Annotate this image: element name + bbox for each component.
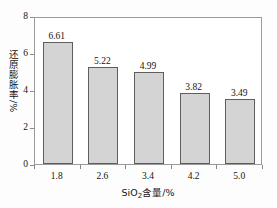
y-axis-tick-mark: [30, 91, 34, 92]
x-axis-tick-label: 5.0: [233, 170, 245, 183]
x-axis-tick-mark: [216, 165, 217, 169]
x-axis-tick-label: 2.6: [96, 170, 108, 183]
bar: [134, 72, 164, 164]
y-axis-title-unit: /%: [8, 100, 19, 112]
x-axis-tick-label: 4.2: [188, 170, 200, 183]
x-axis-tick-mark: [171, 165, 172, 169]
bar: [43, 42, 73, 164]
bar-value-label: 3.49: [231, 87, 248, 99]
y-axis-tick-mark: [30, 128, 34, 129]
y-axis-tick-mark: [30, 17, 34, 18]
bar: [180, 93, 210, 164]
y-axis-tick-label: 0: [23, 158, 28, 171]
plot-area: [34, 17, 262, 165]
bar-value-label: 4.99: [140, 60, 157, 72]
x-axis-tick-mark: [80, 165, 81, 169]
y-axis-tick: 4: [0, 91, 34, 92]
y-axis-tick: 6: [0, 54, 34, 55]
x-axis-title-suffix: 含量/%: [142, 187, 174, 198]
y-axis-tick: 2: [0, 128, 34, 129]
y-axis-tick: 0: [0, 165, 34, 166]
y-axis-tick-label: 4: [23, 84, 28, 97]
x-axis-tick-mark: [34, 165, 35, 169]
x-axis-tick-mark: [262, 165, 263, 169]
bar: [225, 99, 255, 164]
x-axis-title: SiO2含量/%: [34, 187, 262, 200]
bar-value-label: 3.82: [185, 81, 202, 93]
y-axis-tick-label: 2: [23, 121, 28, 134]
bar-value-label: 5.22: [94, 55, 111, 67]
bar-chart-figure: 还原膨胀率/% SiO2含量/% 024686.611.85.222.64.99…: [0, 0, 277, 208]
y-axis-tick-label: 8: [23, 10, 28, 23]
x-axis-tick-mark: [125, 165, 126, 169]
x-axis-tick-label: 3.4: [142, 170, 154, 183]
bar: [88, 67, 118, 164]
x-axis-title-subscript: 2: [138, 192, 142, 200]
y-axis-tick-label: 6: [23, 47, 28, 60]
bar-value-label: 6.61: [48, 30, 65, 42]
x-axis-tick-label: 1.8: [51, 170, 63, 183]
y-axis-title-text: 还原膨胀率: [8, 50, 19, 100]
y-axis-title: 还原膨胀率/%: [4, 50, 18, 112]
y-axis-tick: 8: [0, 17, 34, 18]
y-axis-tick-mark: [30, 54, 34, 55]
x-axis-title-prefix: SiO: [122, 187, 138, 198]
